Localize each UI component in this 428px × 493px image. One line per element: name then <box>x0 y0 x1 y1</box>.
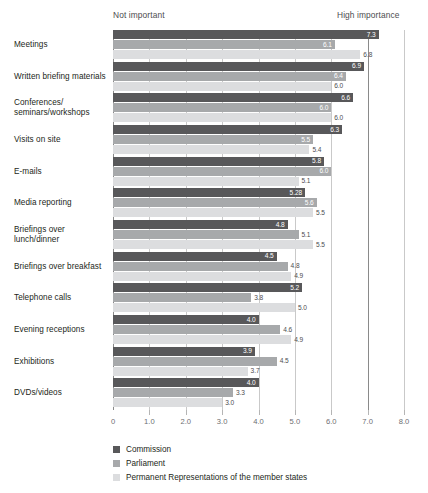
legend-swatch-icon <box>113 460 120 467</box>
bar-row: 6.0 <box>113 82 404 91</box>
bar-row: 3.3 <box>113 388 404 397</box>
bar-value-label: 5.8 <box>302 157 321 165</box>
bar-group: 6.96.46.0 <box>113 62 404 92</box>
bar-value-label: 3.7 <box>251 367 260 375</box>
axis-tick-label: 0 <box>111 417 115 426</box>
category-label: Written briefing materials <box>14 72 110 82</box>
bar <box>113 62 364 71</box>
axis-tick-label: 2.0 <box>180 417 191 426</box>
bar-row: 6.0 <box>113 103 404 112</box>
category-label: Evening receptions <box>14 325 110 335</box>
bar-value-label: 5.4 <box>312 146 321 154</box>
bar-group: 4.54.84.9 <box>113 252 404 282</box>
bar-value-label: 3.9 <box>233 347 252 355</box>
bar-value-label: 3.3 <box>236 389 245 397</box>
legend-item[interactable]: Parliament <box>113 456 423 470</box>
bar-value-label: 6.4 <box>324 72 343 80</box>
bar-value-label: 6.9 <box>342 62 361 70</box>
bar <box>113 303 295 312</box>
bar-value-label: 7.3 <box>357 31 376 39</box>
bar-row: 5.0 <box>113 303 404 312</box>
bar <box>113 72 346 81</box>
bar-value-label: 4.0 <box>237 316 256 324</box>
axis-tick-label: 3.0 <box>217 417 228 426</box>
bar-row: 5.28 <box>113 188 404 197</box>
bar <box>113 220 288 229</box>
bar-group: 4.04.64.9 <box>113 315 404 345</box>
category-label: Meetings <box>14 40 110 50</box>
bar-row: 5.1 <box>113 230 404 239</box>
bar-value-label: 6.1 <box>313 41 332 49</box>
bar-row: 4.9 <box>113 335 404 344</box>
axis-tick-label: 6.0 <box>326 417 337 426</box>
bar <box>113 82 331 91</box>
axis-tick <box>331 410 332 415</box>
category-label: Telephone calls <box>14 293 110 303</box>
bar <box>113 388 233 397</box>
bar-value-label: 4.8 <box>291 262 300 270</box>
bar <box>113 135 313 144</box>
bar <box>113 335 291 344</box>
axis-tick <box>295 410 296 415</box>
bar-value-label: 5.6 <box>295 199 314 207</box>
bar <box>113 367 248 376</box>
bar-value-label: 4.5 <box>280 357 289 365</box>
bar-row: 3.7 <box>113 367 404 376</box>
category-label: E-mails <box>14 167 110 177</box>
bar <box>113 293 251 302</box>
bar-value-label: 5.1 <box>302 177 311 185</box>
axis-tick <box>404 410 405 415</box>
bar-group: 5.285.65.5 <box>113 188 404 218</box>
bar-group: 3.94.53.7 <box>113 347 404 377</box>
legend-label: Permanent Representations of the member … <box>126 473 307 482</box>
bar-row: 5.6 <box>113 198 404 207</box>
bar-value-label: 5.5 <box>291 136 310 144</box>
bar-value-label: 3.0 <box>225 399 234 407</box>
legend-item[interactable]: Permanent Representations of the member … <box>113 470 423 484</box>
category-label: Visits on site <box>14 135 110 145</box>
bar-row: 5.5 <box>113 240 404 249</box>
axis-tick-label: 1.0 <box>144 417 155 426</box>
bar-chart: Not important High importance 7.36.16.86… <box>0 0 428 493</box>
bar-value-label: 5.1 <box>302 231 311 239</box>
bar-value-label: 6.0 <box>334 114 343 122</box>
bar-row: 5.4 <box>113 145 404 154</box>
axis-tick <box>149 410 150 415</box>
bar <box>113 93 353 102</box>
bar <box>113 240 313 249</box>
bar-group: 6.35.55.4 <box>113 125 404 155</box>
bar-row: 6.9 <box>113 62 404 71</box>
bar-row: 6.0 <box>113 167 404 176</box>
bar-value-label: 4.9 <box>294 336 303 344</box>
bar-value-label: 4.0 <box>237 379 256 387</box>
category-label: Media reporting <box>14 198 110 208</box>
bar-value-label: 6.0 <box>334 82 343 90</box>
bar-value-label: 5.0 <box>298 304 307 312</box>
bar <box>113 103 331 112</box>
bar <box>113 177 299 186</box>
category-label: Conferences/seminars/workshops <box>14 98 110 118</box>
axis-tick-label: 5.0 <box>290 417 301 426</box>
bar-row: 4.0 <box>113 378 404 387</box>
bar <box>113 30 379 39</box>
bar-group: 4.85.15.5 <box>113 220 404 250</box>
bar-value-label: 6.0 <box>309 167 328 175</box>
x-axis: 01.02.03.04.05.06.07.08.0 <box>113 410 404 432</box>
bar-row: 4.5 <box>113 357 404 366</box>
bar-row: 6.6 <box>113 93 404 102</box>
bar-group: 6.66.06.0 <box>113 93 404 123</box>
bar-value-label: 4.6 <box>283 326 292 334</box>
bar-row: 5.5 <box>113 135 404 144</box>
legend-label: Parliament <box>126 459 165 468</box>
bar-row: 6.3 <box>113 125 404 134</box>
bar <box>113 283 302 292</box>
bar-value-label: 5.28 <box>283 189 302 197</box>
bar-value-label: 6.8 <box>363 51 372 59</box>
bar-value-label: 4.8 <box>266 221 285 229</box>
bar-row: 4.9 <box>113 272 404 281</box>
bar-value-label: 4.9 <box>294 272 303 280</box>
bar-row: 6.8 <box>113 50 404 59</box>
bar-value-label: 3.8 <box>254 294 263 302</box>
bar <box>113 125 342 134</box>
legend-item[interactable]: Commission <box>113 442 423 456</box>
